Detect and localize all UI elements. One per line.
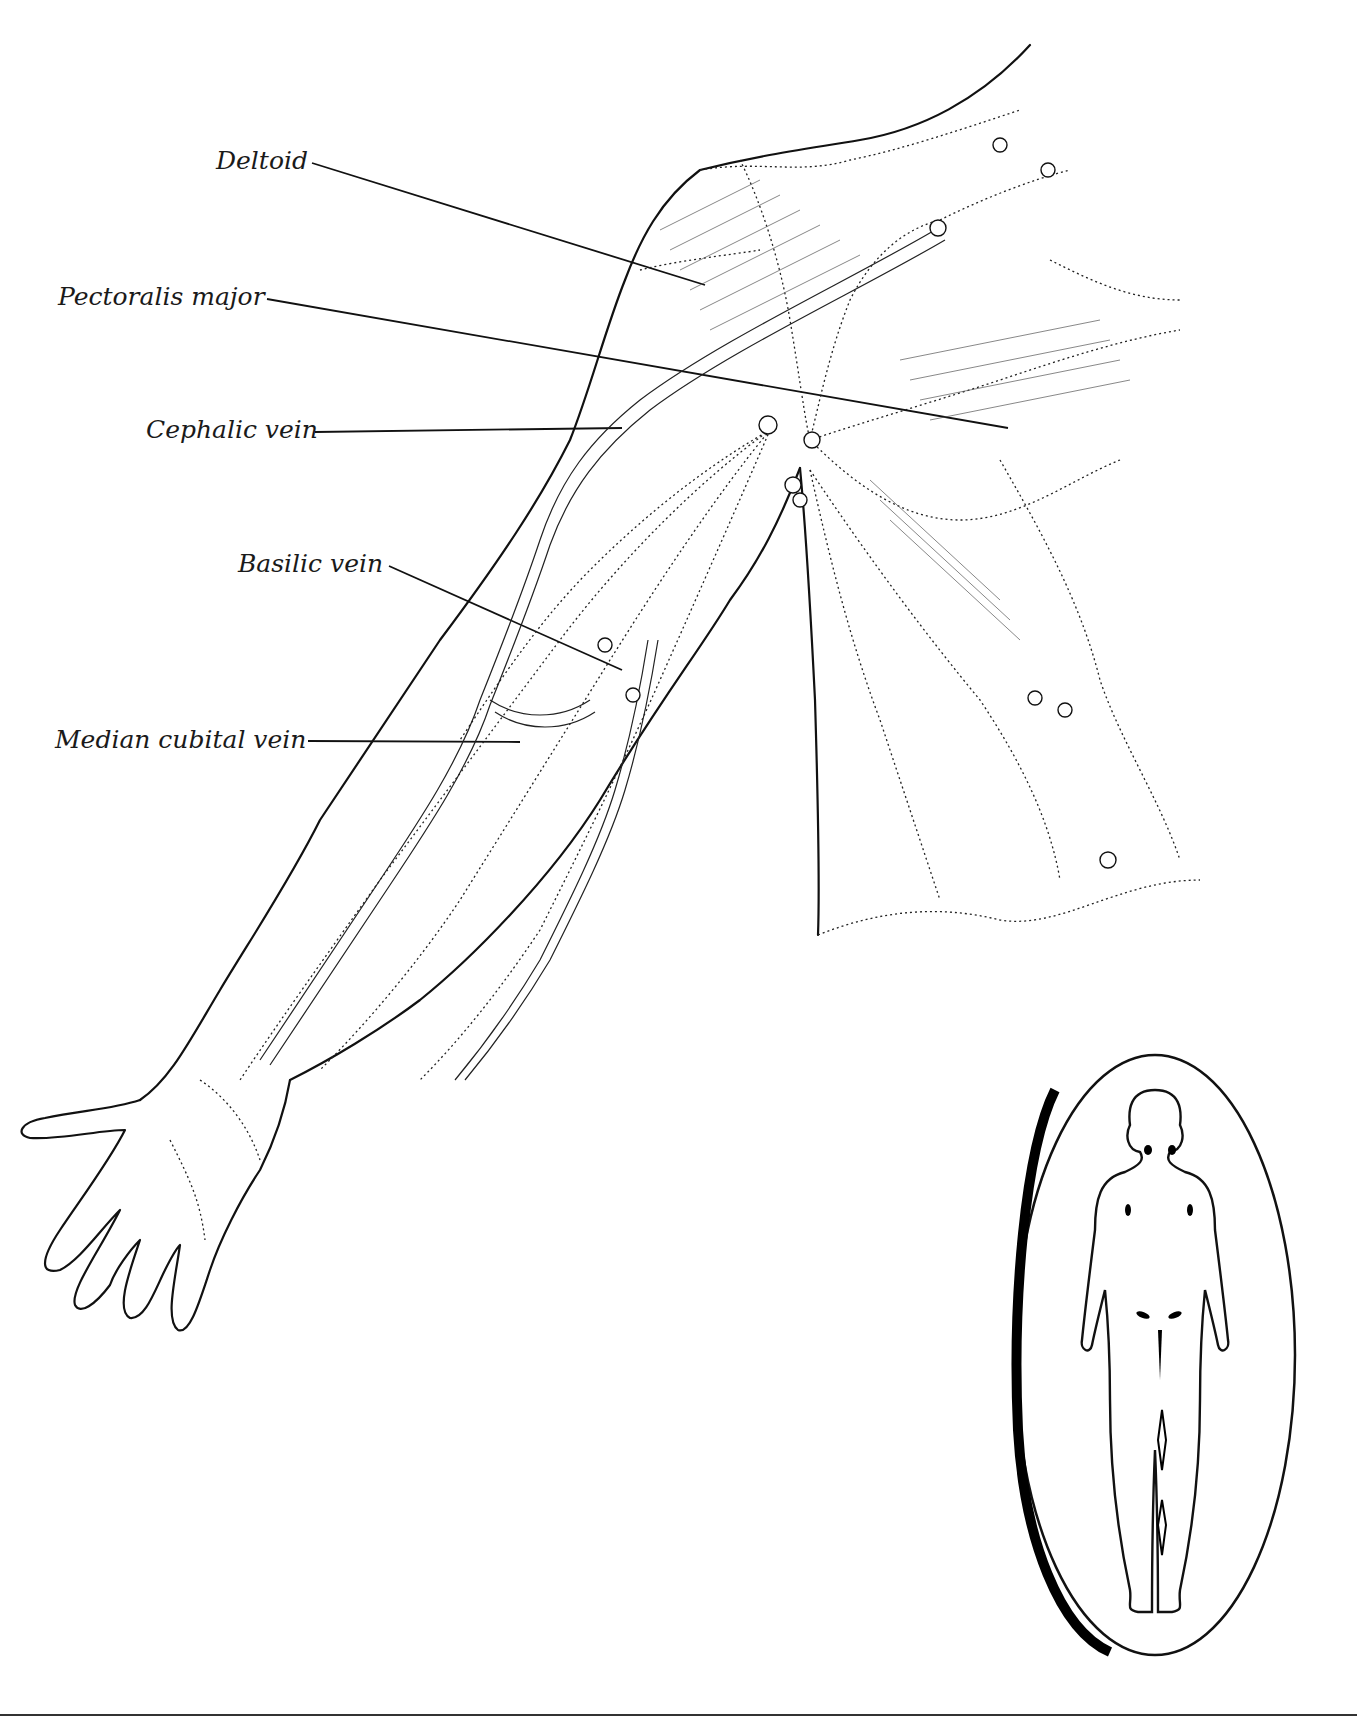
label-cephalic-vein: Cephalic vein [146, 417, 318, 442]
label-pectoralis-major: Pectoralis major [58, 284, 265, 309]
label-median-cubital-vein: Median cubital vein [55, 727, 306, 752]
anatomical-figure: Deltoid Pectoralis major Cephalic vein B… [0, 0, 1357, 1720]
label-deltoid: Deltoid [216, 148, 308, 173]
inset-oval [1015, 1055, 1295, 1655]
inset-body-diagram [0, 0, 1357, 1720]
bottom-rule [0, 1714, 1357, 1716]
label-basilic-vein: Basilic vein [238, 551, 383, 576]
